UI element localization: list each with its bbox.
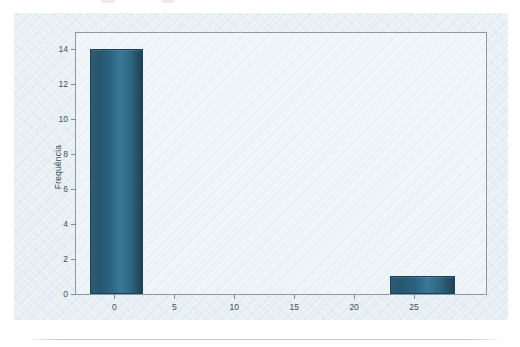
y-tick-mark xyxy=(71,189,76,190)
y-tick-label: 4 xyxy=(63,219,68,229)
y-tick-mark xyxy=(71,119,76,120)
y-tick-label: 10 xyxy=(59,114,68,124)
x-tick-mark xyxy=(234,294,235,299)
plot-frame: 024681012140510152025 xyxy=(75,32,487,295)
y-tick-mark xyxy=(71,259,76,260)
x-tick-mark xyxy=(294,294,295,299)
x-tick-label: 0 xyxy=(112,302,117,312)
y-tick-mark xyxy=(71,84,76,85)
bar xyxy=(390,276,455,294)
x-tick-mark xyxy=(174,294,175,299)
x-tick-label: 5 xyxy=(172,302,177,312)
page-divider-rule xyxy=(30,339,500,340)
x-tick-label: 15 xyxy=(289,302,298,312)
bar xyxy=(90,49,143,294)
y-tick-label: 0 xyxy=(63,289,68,299)
x-tick-mark xyxy=(414,294,415,299)
y-tick-mark xyxy=(71,294,76,295)
y-tick-mark xyxy=(71,154,76,155)
x-tick-label: 10 xyxy=(230,302,239,312)
y-tick-label: 14 xyxy=(59,44,68,54)
y-tick-mark xyxy=(71,224,76,225)
plot-area: 024681012140510152025 xyxy=(76,33,486,294)
y-axis-title: Frequência xyxy=(53,144,63,189)
text-remnant-mark xyxy=(101,0,115,3)
y-tick-label: 2 xyxy=(63,254,68,264)
y-tick-label: 6 xyxy=(63,184,68,194)
x-tick-mark xyxy=(354,294,355,299)
chart-figure-panel: Frequência 024681012140510152025 xyxy=(14,13,508,320)
x-tick-mark xyxy=(114,294,115,299)
text-remnant-mark xyxy=(162,0,174,3)
y-tick-label: 8 xyxy=(63,149,68,159)
y-tick-mark xyxy=(71,49,76,50)
x-tick-label: 25 xyxy=(409,302,418,312)
x-tick-label: 20 xyxy=(349,302,358,312)
y-tick-label: 12 xyxy=(59,79,68,89)
cropped-text-remnant xyxy=(0,0,520,6)
